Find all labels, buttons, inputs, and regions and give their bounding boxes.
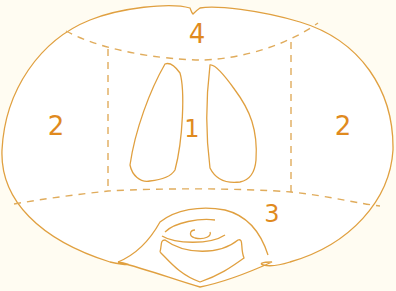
zone-2-left-label: 2 <box>48 111 65 141</box>
prostate-zone-diagram: 4 2 2 1 3 <box>0 0 396 291</box>
zone-4-label: 4 <box>189 19 206 49</box>
zone-1-label: 1 <box>184 115 199 143</box>
zone-2-right-label: 2 <box>335 111 352 141</box>
zone-3-label: 3 <box>264 200 279 228</box>
